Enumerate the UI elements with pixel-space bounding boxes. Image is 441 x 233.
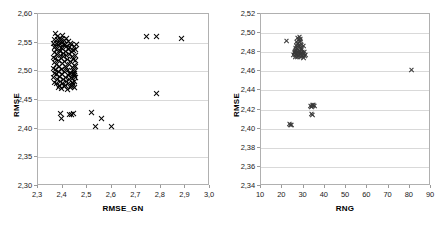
- data-point-marker: [298, 45, 304, 51]
- data-point-marker: [53, 40, 60, 47]
- data-point-marker: [59, 80, 66, 87]
- data-point-marker: [58, 115, 65, 122]
- x-tick-mark: [135, 185, 136, 188]
- data-point-marker: [287, 121, 293, 127]
- data-point-marker: [62, 48, 69, 55]
- data-point-marker: [296, 43, 302, 49]
- y-tick-mark: [34, 99, 37, 100]
- data-point-marker: [71, 62, 78, 69]
- x-tick-label: 90: [426, 190, 434, 199]
- data-point-marker: [51, 44, 58, 51]
- x-tick-label: 50: [341, 190, 349, 199]
- data-point-marker: [312, 103, 318, 109]
- data-point-marker: [63, 52, 70, 59]
- data-point-marker: [309, 112, 315, 118]
- gridline-y: [38, 100, 208, 101]
- data-point-marker: [288, 122, 294, 128]
- data-point-marker: [54, 51, 61, 58]
- data-point-marker: [51, 36, 58, 43]
- data-point-marker: [294, 39, 300, 45]
- data-point-marker: [65, 72, 72, 79]
- data-point-marker: [72, 57, 79, 64]
- gridline-y: [261, 110, 429, 111]
- data-point-marker: [70, 56, 77, 63]
- y-tick-mark: [257, 70, 260, 71]
- data-point-marker: [55, 57, 62, 64]
- data-point-marker: [73, 52, 80, 59]
- data-point-marker: [72, 74, 79, 81]
- data-point-marker: [56, 38, 63, 45]
- data-point-marker: [58, 44, 65, 51]
- y-tick-label: 2,38: [241, 142, 255, 151]
- data-point-marker: [67, 58, 74, 65]
- data-point-marker: [63, 35, 70, 42]
- data-point-marker: [57, 78, 64, 85]
- data-point-marker: [309, 111, 315, 117]
- data-point-marker: [56, 47, 63, 54]
- plot-area-right: [260, 13, 430, 185]
- data-point-marker: [89, 109, 96, 116]
- y-tick-mark: [34, 156, 37, 157]
- data-point-marker: [294, 43, 300, 49]
- y-tick-mark: [257, 13, 260, 14]
- x-tick-mark: [260, 185, 261, 188]
- data-point-marker: [57, 110, 64, 117]
- data-point-marker: [311, 102, 317, 108]
- y-tick-mark: [257, 128, 260, 129]
- data-point-marker: [53, 80, 60, 87]
- data-point-marker: [64, 67, 71, 74]
- data-point-marker: [69, 75, 76, 82]
- gridline-y: [261, 129, 429, 130]
- x-tick-label: 20: [277, 190, 285, 199]
- y-tick-label: 2,45: [18, 95, 32, 104]
- y-tick-label: 2,50: [18, 66, 32, 75]
- data-point-marker: [70, 47, 77, 54]
- data-point-marker: [70, 110, 77, 117]
- y-tick-label: 2,40: [18, 123, 32, 132]
- x-tick-mark: [324, 185, 325, 188]
- data-point-marker: [69, 64, 76, 71]
- y-tick-mark: [34, 70, 37, 71]
- data-point-marker: [63, 64, 70, 71]
- data-point-marker: [51, 49, 58, 56]
- data-point-marker: [54, 76, 61, 83]
- data-point-marker: [59, 45, 66, 52]
- data-point-marker: [66, 44, 73, 51]
- data-point-marker: [297, 36, 303, 42]
- data-point-marker: [298, 38, 304, 44]
- x-tick-label: 2,4: [56, 190, 66, 199]
- data-point-marker: [66, 51, 73, 58]
- x-tick-mark: [281, 185, 282, 188]
- data-point-marker: [71, 43, 78, 50]
- data-point-marker: [68, 83, 75, 90]
- x-tick-label: 2,9: [179, 190, 189, 199]
- data-point-marker: [65, 80, 72, 87]
- data-point-marker: [62, 58, 69, 65]
- x-tick-label: 3,0: [204, 190, 214, 199]
- data-point-marker: [284, 38, 290, 44]
- x-tick-label: 2,6: [106, 190, 116, 199]
- x-tick-label: 40: [320, 190, 328, 199]
- data-point-marker: [52, 55, 59, 62]
- data-point-marker: [68, 48, 75, 55]
- x-tick-mark: [111, 185, 112, 188]
- data-point-marker: [57, 52, 64, 59]
- data-point-marker: [53, 61, 60, 68]
- data-point-marker: [56, 82, 63, 89]
- y-tick-mark: [257, 147, 260, 148]
- x-tick-label: 30: [298, 190, 306, 199]
- data-point-marker: [52, 30, 59, 37]
- data-point-marker: [51, 59, 58, 66]
- x-tick-label: 60: [362, 190, 370, 199]
- chart-panel-left: RMSE RMSE_GN 2,302,352,402,452,502,552,6…: [0, 0, 220, 233]
- data-point-marker: [71, 72, 78, 79]
- data-point-marker: [295, 53, 301, 59]
- data-point-marker: [52, 43, 59, 50]
- data-point-marker: [310, 103, 316, 109]
- y-tick-label: 2,52: [241, 9, 255, 18]
- y-tick-label: 2,60: [18, 9, 32, 18]
- data-point-marker: [309, 102, 315, 108]
- x-tick-mark: [409, 185, 410, 188]
- y-axis-title-right: RMSE: [232, 93, 241, 117]
- x-tick-mark: [86, 185, 87, 188]
